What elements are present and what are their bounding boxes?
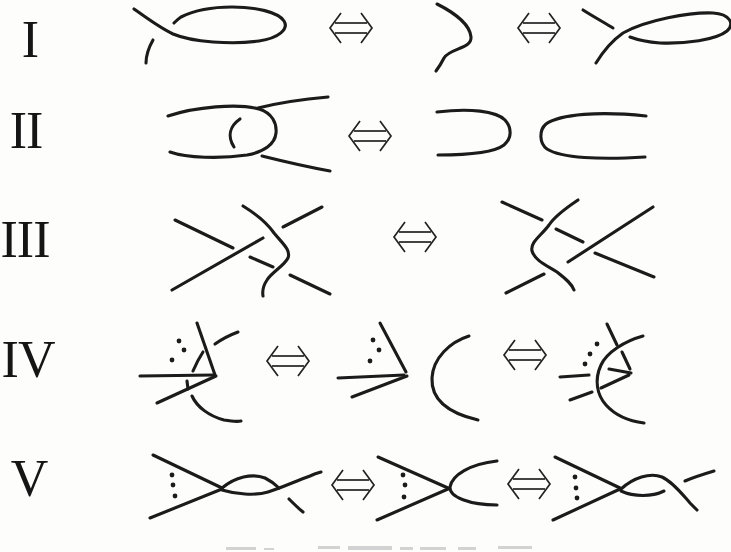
equivalence-arrow-icon bbox=[330, 13, 372, 43]
move-IV-middle-detached bbox=[338, 323, 478, 420]
knot-diagrams-canvas bbox=[0, 0, 731, 552]
figure-stage: I II III IV V bbox=[0, 0, 731, 552]
equivalence-arrow-icon bbox=[267, 346, 309, 376]
move-I-left-kink bbox=[134, 7, 285, 63]
move-I-middle-straight-strand bbox=[436, 4, 471, 71]
cropped-caption-remnant bbox=[226, 546, 532, 550]
equivalence-arrow-icon bbox=[332, 470, 374, 500]
move-II-left-poke bbox=[168, 97, 330, 171]
move-V-right-crossed-edges bbox=[553, 457, 714, 520]
move-I-right-kink bbox=[583, 10, 731, 63]
equivalence-arrow-icon bbox=[504, 340, 546, 370]
move-III-right bbox=[502, 200, 654, 293]
move-III-left bbox=[172, 206, 330, 296]
move-V-middle-uncrossed-edges bbox=[377, 457, 497, 520]
equivalence-arrow-icon bbox=[394, 222, 436, 252]
equivalence-arrow-icon bbox=[508, 469, 550, 499]
move-II-right-separated-arcs bbox=[437, 110, 646, 158]
move-IV-right-strand-over-vertex bbox=[560, 324, 644, 423]
equivalence-arrow-icon bbox=[349, 121, 391, 151]
move-V-left-crossed-edges bbox=[150, 455, 321, 518]
move-IV-left-strand-under-vertex bbox=[140, 323, 241, 421]
equivalence-arrow-icon bbox=[518, 13, 560, 43]
